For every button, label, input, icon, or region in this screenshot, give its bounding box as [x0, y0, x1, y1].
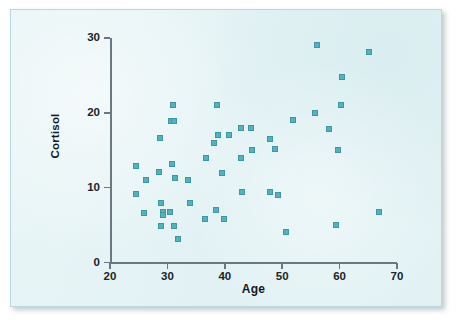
scatter-point	[238, 125, 244, 131]
scatter-point	[167, 209, 173, 215]
scatter-point	[158, 200, 164, 206]
scatter-point	[326, 126, 332, 132]
x-tick	[167, 263, 169, 269]
y-axis-title: Cortisol	[49, 88, 61, 184]
scatter-point	[202, 216, 208, 222]
scatter-point	[221, 216, 227, 222]
y-tick	[104, 37, 110, 39]
scatter-point	[187, 200, 193, 206]
y-tick-label: 0	[74, 256, 100, 268]
scatter-point	[267, 136, 273, 142]
x-tick-label: 60	[327, 270, 353, 282]
x-tick-label: 50	[269, 270, 295, 282]
y-tick-label: 30	[74, 31, 100, 43]
scatter-point	[172, 175, 178, 181]
scatter-point	[141, 210, 147, 216]
scatter-point	[312, 110, 318, 116]
x-tick-label: 20	[97, 270, 123, 282]
scatter-point	[213, 207, 219, 213]
scatter-point	[314, 42, 320, 48]
x-tick	[109, 263, 111, 269]
y-tick-label: 10	[74, 181, 100, 193]
scatter-point	[170, 102, 176, 108]
scatter-point	[366, 49, 372, 55]
y-tick-label: 20	[74, 106, 100, 118]
scatter-point	[248, 125, 254, 131]
x-tick	[396, 263, 398, 269]
scatter-point	[175, 236, 181, 242]
scatter-point	[333, 222, 339, 228]
x-tick	[339, 263, 341, 269]
scatter-point	[335, 147, 341, 153]
scatter-point	[283, 229, 289, 235]
y-axis-line	[110, 38, 112, 263]
scatter-plot: 0102030 203040506070 Cortisol Age	[11, 10, 441, 306]
scatter-point	[156, 169, 162, 175]
scatter-point	[290, 117, 296, 123]
y-tick	[104, 112, 110, 114]
scatter-point	[267, 189, 273, 195]
scatter-point	[158, 223, 164, 229]
scatter-point	[275, 192, 281, 198]
scatter-point	[239, 189, 245, 195]
x-tick-label: 30	[154, 270, 180, 282]
scatter-point	[143, 177, 149, 183]
scatter-point	[249, 147, 255, 153]
scatter-point	[133, 191, 139, 197]
scatter-point	[272, 146, 278, 152]
scatter-point	[211, 140, 217, 146]
scatter-point	[171, 118, 177, 124]
scatter-point	[226, 132, 232, 138]
scatter-point	[169, 161, 175, 167]
screenshot-root: 0102030 203040506070 Cortisol Age	[0, 0, 456, 325]
x-axis-line	[110, 262, 397, 264]
scatter-point	[160, 212, 166, 218]
scatter-point	[339, 74, 345, 80]
scatter-point	[215, 132, 221, 138]
x-tick-label: 40	[212, 270, 238, 282]
y-tick	[104, 187, 110, 189]
x-tick	[224, 263, 226, 269]
scatter-point	[219, 170, 225, 176]
scatter-point	[214, 102, 220, 108]
scatter-point	[171, 223, 177, 229]
x-axis-title: Age	[110, 282, 397, 296]
figure-panel: 0102030 203040506070 Cortisol Age	[10, 9, 442, 307]
scatter-point	[133, 163, 139, 169]
scatter-point	[203, 155, 209, 161]
scatter-point	[338, 102, 344, 108]
scatter-point	[157, 135, 163, 141]
scatter-point	[376, 209, 382, 215]
scatter-point	[238, 155, 244, 161]
x-tick-label: 70	[384, 270, 410, 282]
scatter-point	[185, 177, 191, 183]
x-tick	[281, 263, 283, 269]
